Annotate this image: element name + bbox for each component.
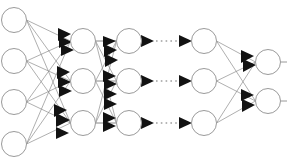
node-input-3[interactable] [2,90,27,115]
node-hidden1-3[interactable] [71,111,96,136]
arrow-head-icon [141,117,154,129]
layer-hidden1-nodes [71,29,96,136]
layer-hidden2-nodes [117,29,142,136]
node-hidden2-1[interactable] [117,29,142,54]
edge-in1-h1 [27,20,71,41]
arrow-head-icon [141,35,154,47]
layer-hiddenN-nodes [192,29,217,136]
node-hiddenN-1[interactable] [192,29,217,54]
node-output-1[interactable] [256,50,281,75]
ellipsis-connections [141,35,192,129]
node-input-1[interactable] [2,8,27,33]
node-hidden1-1[interactable] [71,29,96,54]
node-hiddenN-3[interactable] [192,111,217,136]
layer-input-nodes [2,8,27,157]
neural-network-diagram [0,0,287,168]
edge-hn2-out2 [217,81,256,101]
output-stubs [281,62,288,101]
arrow-head-icon [242,99,255,112]
arrow-head-icon [104,78,117,90]
node-hidden2-2[interactable] [117,69,142,94]
arrow-head-icon [56,127,69,139]
edge-hn1-out1 [217,41,256,62]
node-output-2[interactable] [256,89,281,114]
arrow-head-icon [141,75,154,87]
connection-group-hiddenN-output [217,41,256,123]
arrow-head-icon [59,85,72,97]
arrow-head-icon [105,54,118,67]
node-hiddenN-2[interactable] [192,69,217,94]
node-hidden1-2[interactable] [71,69,96,94]
arrow-head-icon [241,50,254,63]
arrow-head-icon [56,113,70,127]
arrowheads-into-hidden2 [103,36,118,132]
neural-network-canvas [0,0,287,168]
arrow-head-icon [179,117,192,129]
node-hidden2-3[interactable] [117,111,142,136]
layer-output-nodes [256,50,281,114]
arrow-head-icon [179,75,192,87]
node-input-2[interactable] [2,49,27,74]
arrow-head-icon [179,35,192,47]
node-input-4[interactable] [2,132,27,157]
arrow-head-icon [103,120,116,132]
